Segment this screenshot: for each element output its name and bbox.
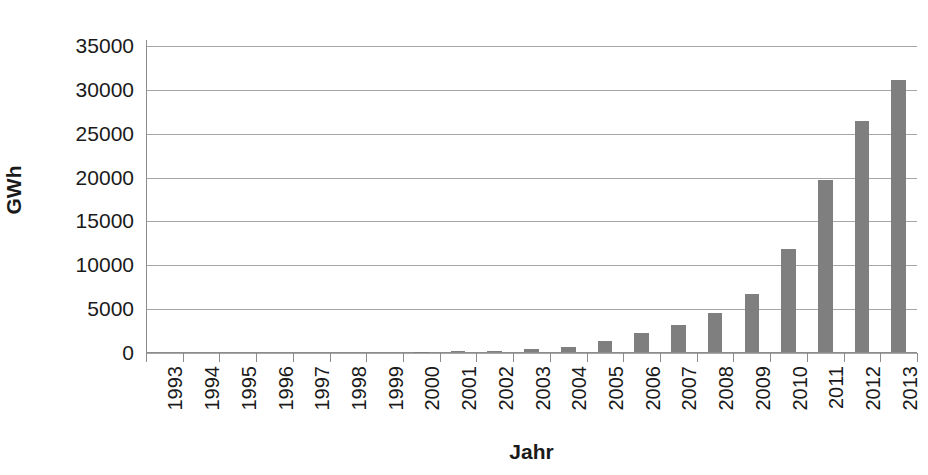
x-axis-tick-label: 2010 (789, 366, 811, 438)
x-axis-tick (403, 353, 404, 362)
x-axis-tick-label: 2013 (899, 366, 921, 438)
x-axis-tick (440, 353, 441, 362)
x-axis-tick-label: 1998 (348, 366, 370, 438)
bar-slot (403, 45, 440, 352)
bar (781, 249, 796, 352)
x-axis-tick-label: 2005 (605, 366, 627, 438)
y-axis-tick-label: 30000 (30, 78, 134, 102)
bar-slot (844, 45, 881, 352)
x-axis-tick-label: 2009 (752, 366, 774, 438)
x-axis-tick (844, 353, 845, 362)
plot-area (146, 46, 917, 353)
bar (708, 313, 723, 352)
bar-slot (770, 45, 807, 352)
bar-slot (366, 45, 403, 352)
x-axis-tick (183, 353, 184, 362)
bar (818, 180, 833, 352)
x-axis-tick-label: 1995 (238, 366, 260, 438)
bar (561, 347, 576, 352)
x-axis-ticks (146, 353, 917, 362)
bar-slot (880, 45, 917, 352)
x-axis-tick-label: 1999 (385, 366, 407, 438)
x-axis-tick (256, 353, 257, 362)
x-axis-title: Jahr (146, 440, 917, 464)
y-axis-tick-label: 5000 (30, 297, 134, 321)
bar (451, 351, 466, 352)
x-axis-tick-label: 1996 (275, 366, 297, 438)
x-axis-tick (513, 353, 514, 362)
x-axis-tick-label: 2006 (642, 366, 664, 438)
y-axis-tick-label: 25000 (30, 122, 134, 146)
x-axis-tick (146, 353, 147, 362)
x-axis-tick-label: 2004 (568, 366, 590, 438)
x-axis-tick (587, 353, 588, 362)
bar (487, 351, 502, 352)
y-axis-tick-label: 20000 (30, 166, 134, 190)
bar (671, 325, 686, 352)
x-axis-tick-label: 2012 (862, 366, 884, 438)
bar (598, 341, 613, 352)
x-axis-tick (770, 353, 771, 362)
y-axis-tick-label: 15000 (30, 209, 134, 233)
x-axis-tick-label: 2011 (825, 366, 847, 438)
x-axis-tick-label: 2003 (532, 366, 554, 438)
bar-slot (587, 45, 624, 352)
x-axis-tick-label: 2002 (495, 366, 517, 438)
x-axis-tick-label: 2001 (458, 366, 480, 438)
y-axis-tick-label: 10000 (30, 253, 134, 277)
bar-slot (476, 45, 513, 352)
bar-slot (330, 45, 367, 352)
bar-slot (440, 45, 477, 352)
x-axis-tick (917, 353, 918, 362)
x-axis-tick-label: 1994 (201, 366, 223, 438)
y-axis-title: GWh (2, 130, 26, 250)
x-axis-tick-label: 2000 (421, 366, 443, 438)
x-axis-tick (293, 353, 294, 362)
bar-chart: GWh 05000100001500020000250003000035000 … (0, 0, 928, 475)
bar-series (146, 45, 917, 352)
x-axis-tick (476, 353, 477, 362)
x-axis-tick (366, 353, 367, 362)
bar (855, 121, 870, 352)
x-axis-tick-label: 1993 (164, 366, 186, 438)
x-axis-tick (697, 353, 698, 362)
bar (745, 294, 760, 352)
x-axis-tick (733, 353, 734, 362)
x-axis-tick (330, 353, 331, 362)
x-axis-tick-labels: 1993199419951996199719981999200020012002… (146, 362, 917, 434)
bar-slot (697, 45, 734, 352)
x-axis-tick-label: 2007 (678, 366, 700, 438)
x-axis-tick (623, 353, 624, 362)
bar (891, 80, 906, 352)
bar-slot (660, 45, 697, 352)
bar-slot (513, 45, 550, 352)
x-axis-tick (660, 353, 661, 362)
bar-slot (219, 45, 256, 352)
x-axis-tick (219, 353, 220, 362)
bar-slot (183, 45, 220, 352)
bar (524, 349, 539, 352)
y-axis-tick-label: 0 (30, 341, 134, 365)
bar (634, 333, 649, 352)
bar-slot (293, 45, 330, 352)
bar-slot (146, 45, 183, 352)
x-axis-tick-label: 2008 (715, 366, 737, 438)
bar-slot (623, 45, 660, 352)
y-axis-tick-labels: 05000100001500020000250003000035000 (30, 46, 134, 353)
bar-slot (807, 45, 844, 352)
bar-slot (256, 45, 293, 352)
bar-slot (734, 45, 771, 352)
x-axis-tick (880, 353, 881, 362)
bar-slot (550, 45, 587, 352)
y-axis-tick-label: 35000 (30, 34, 134, 58)
x-axis-tick (550, 353, 551, 362)
x-axis-tick-label: 1997 (311, 366, 333, 438)
x-axis-tick (807, 353, 808, 362)
